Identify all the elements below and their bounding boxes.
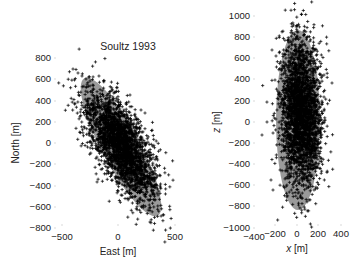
right-ytick: 200 [234, 95, 250, 106]
left-ytick: −600 [30, 201, 51, 212]
right-ytick: −400 [229, 158, 250, 169]
right-ytick: 400 [234, 73, 250, 84]
left-y-axis-label: North [m] [10, 122, 21, 163]
left-ytick: 0 [46, 137, 51, 148]
right-ytick: 600 [234, 52, 250, 63]
right-ytick: −200 [229, 137, 250, 148]
left-xtick: −500 [51, 231, 72, 242]
left-ytick: −200 [30, 158, 51, 169]
right-y-ticks: 1000 800 600 400 200 0 −200 −400 −600 −8… [223, 10, 250, 233]
right-ytick: 800 [234, 31, 250, 42]
left-ytick: −800 [30, 222, 51, 233]
right-ytick: −800 [229, 200, 250, 211]
left-ytick: −400 [30, 180, 51, 191]
right-xtick: 400 [333, 228, 349, 239]
figure: Soultz 1993 800 600 400 200 0 −200 −400 … [0, 0, 360, 267]
left-x-ticks: −500 0 500 [51, 231, 183, 242]
right-ytick: 0 [245, 116, 250, 127]
right-y-axis-label: z [m] [211, 111, 222, 134]
left-ytick: 400 [35, 95, 51, 106]
right-xtick: 0 [294, 228, 299, 239]
left-ytick: 800 [35, 52, 51, 63]
left-plot: Soultz 1993 800 600 400 200 0 −200 −400 … [10, 40, 183, 257]
right-xtick: −200 [264, 228, 285, 239]
right-ytick: −600 [229, 179, 250, 190]
right-plot: 1000 800 600 400 200 0 −200 −400 −600 −8… [211, 0, 349, 254]
left-y-ticks: 800 600 400 200 0 −200 −400 −600 −800 [30, 52, 51, 233]
left-plot-title: Soultz 1993 [100, 40, 156, 52]
right-xtick: −400 [243, 231, 264, 242]
right-x-axis-label: x [m] [285, 243, 308, 254]
right-ytick: 1000 [229, 10, 250, 21]
right-xtick: 200 [310, 228, 326, 239]
left-x-axis-label: East [m] [100, 246, 137, 257]
right-x-ticks: −400 −200 0 200 400 [243, 228, 349, 242]
left-ytick: 200 [35, 116, 51, 127]
left-xtick: 0 [115, 231, 120, 242]
left-ytick: 600 [35, 73, 51, 84]
left-xtick: 500 [167, 231, 183, 242]
